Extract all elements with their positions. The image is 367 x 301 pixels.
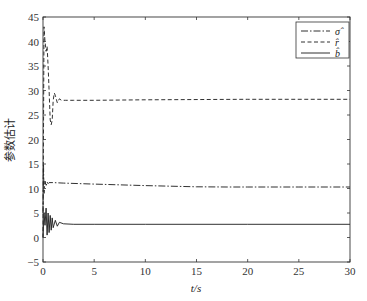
- y-tick-label: 30: [28, 85, 40, 97]
- y-tick-label: 20: [28, 134, 40, 146]
- x-tick-label: 20: [242, 265, 254, 277]
- parameter-estimate-chart: 051015202530−5051015202530354045 t/s 参数估…: [0, 0, 367, 301]
- series-line-2: [43, 208, 350, 237]
- x-tick-label: 30: [345, 265, 357, 277]
- y-tick-label: 35: [28, 60, 40, 72]
- series-line-1: [43, 27, 350, 238]
- y-tick-label: 25: [28, 109, 40, 121]
- series-layer: [43, 27, 350, 238]
- series-line-0: [43, 164, 350, 213]
- x-axis-label: t/s: [191, 282, 201, 294]
- y-tick-label: 0: [34, 232, 40, 244]
- y-tick-label: 15: [28, 158, 40, 170]
- x-tick-label: 10: [140, 265, 152, 277]
- x-tick-label: 5: [91, 265, 97, 277]
- y-tick-label: 40: [28, 36, 40, 48]
- x-tick-label: 15: [191, 265, 203, 277]
- y-axis-label: 参数估计: [3, 118, 16, 162]
- y-tick-label: 10: [28, 183, 40, 195]
- y-tick-label: −5: [27, 256, 39, 268]
- y-tick-label: 45: [28, 11, 40, 23]
- x-tick-label: 25: [293, 265, 305, 277]
- legend: σ̂r̂b̂: [296, 22, 349, 59]
- x-tick-label: 0: [40, 265, 46, 277]
- legend-label: b̂: [335, 47, 340, 59]
- y-tick-label: 5: [34, 207, 40, 219]
- legend-label: r̂: [335, 37, 339, 48]
